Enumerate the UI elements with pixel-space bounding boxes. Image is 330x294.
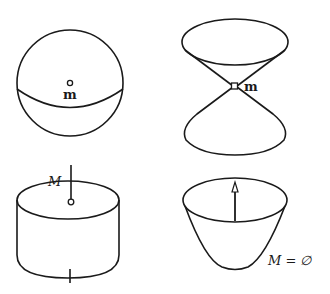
diagram-svg: m m M M = ∅ [0,0,330,294]
cylinder-body [17,200,119,278]
arrow-up-icon [232,182,238,192]
cone-top-ellipse [182,19,288,65]
sphere-point-marker [67,80,72,85]
cone-upper-left-edge [185,50,233,86]
paraboloid-figure: M = ∅ [183,178,312,270]
diagram-canvas: m m M M = ∅ [0,0,330,294]
cone-label: m [244,79,258,94]
cylinder-point-marker [68,199,74,205]
cone-apex-marker [232,83,238,89]
cone-lower-nappe [184,87,285,155]
sphere-figure: m [17,30,123,136]
cylinder-top-ellipse [17,181,119,219]
paraboloid-label: M = ∅ [267,253,312,268]
cylinder-figure: M [17,165,119,283]
cylinder-label: M [47,174,62,189]
double-cone-figure: m [182,19,288,155]
sphere-label: m [63,87,77,102]
